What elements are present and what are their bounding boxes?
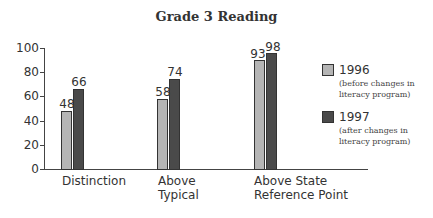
y-tick-label: 20 — [24, 139, 39, 151]
y-tick — [40, 169, 44, 170]
y-tick — [40, 145, 44, 146]
legend-note-1997: (after changes in literacy program) — [339, 125, 410, 147]
category-label-above-state: Above State Reference Point — [254, 174, 348, 202]
y-tick-label: 0 — [31, 163, 39, 175]
legend-label-1996: 1996 — [339, 64, 370, 77]
y-tick-label: 100 — [16, 42, 39, 54]
bar-1997-above-state — [266, 53, 277, 170]
legend-note-1996: (before changes in literacy program) — [339, 78, 415, 100]
legend-label-1997: 1997 — [339, 111, 370, 124]
y-tick — [40, 96, 44, 97]
y-tick — [40, 48, 44, 49]
value-label: 74 — [163, 66, 187, 78]
y-tick-label: 60 — [24, 90, 39, 102]
chart-title: Grade 3 Reading — [0, 9, 433, 24]
value-label: 58 — [151, 86, 175, 98]
y-tick — [40, 121, 44, 122]
bar-1996-above-typical — [157, 99, 168, 170]
y-axis — [44, 48, 45, 170]
legend-swatch-1996 — [322, 64, 334, 76]
y-tick-label: 40 — [24, 115, 39, 127]
y-tick — [40, 72, 44, 73]
x-axis — [40, 169, 368, 170]
legend-swatch-1997 — [322, 111, 334, 123]
y-tick-label: 80 — [24, 66, 39, 78]
value-label: 66 — [67, 76, 91, 88]
category-label-above-typical: Above Typical — [158, 174, 199, 202]
value-label: 98 — [261, 41, 285, 53]
bar-1996-distinction — [61, 111, 72, 170]
bar-1996-above-state — [254, 60, 265, 170]
category-label-distinction: Distinction — [62, 174, 126, 188]
value-label: 48 — [55, 98, 79, 110]
